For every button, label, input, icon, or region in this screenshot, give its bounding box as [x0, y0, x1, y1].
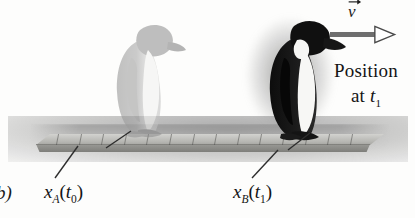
label-position-a: xA(t0) [44, 181, 83, 205]
velocity-symbol: v [348, 3, 356, 20]
label-b-close-paren: ) [266, 181, 272, 202]
label-position-b: xB(t1) [233, 181, 272, 205]
arrow-shaft [330, 32, 378, 37]
caption-line-1: Position [334, 60, 398, 81]
figure-canvas: v Position at t1 b) xA(t0) xB(t1) [0, 0, 415, 218]
caption-line-2: at t1 [318, 83, 414, 116]
position-caption: Position at t1 [318, 58, 414, 116]
velocity-arrow-icon [330, 26, 406, 44]
penguin-at-t0 [98, 14, 194, 142]
panel-label: b) [0, 182, 12, 204]
caption-at-text: at [351, 85, 370, 106]
caption-time-subscript: 1 [375, 97, 381, 109]
label-a-close-paren: ) [77, 181, 83, 202]
plank-front-face [36, 144, 384, 152]
arrow-head [374, 25, 398, 45]
vector-arrow-accent-icon [347, 0, 362, 5]
